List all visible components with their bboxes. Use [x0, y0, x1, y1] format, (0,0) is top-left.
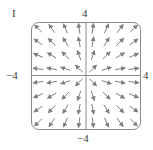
vector-arrow: [78, 51, 81, 60]
vector-arrow: [62, 92, 69, 99]
vector-arrow: [129, 94, 138, 98]
vector-arrow: [34, 106, 42, 112]
vector-arrow: [48, 39, 55, 46]
vector-arrow: [117, 118, 123, 126]
vector-arrow: [78, 104, 80, 114]
vector-arrow: [61, 81, 70, 84]
vector-arrow: [49, 25, 55, 33]
vector-arrow: [130, 25, 137, 32]
vector-arrow: [48, 105, 55, 112]
vector-arrow: [92, 37, 94, 47]
vector-arrow: [104, 38, 109, 47]
vector-arrow: [76, 79, 83, 86]
vector-arrow: [117, 39, 124, 46]
vector-arrow: [78, 91, 81, 100]
vector-arrow: [63, 38, 68, 47]
vector-arrow: [116, 93, 125, 98]
vector-arrow: [91, 91, 94, 100]
vector-arrow: [103, 92, 110, 99]
vector-arrow: [33, 81, 43, 82]
vector-arrow: [35, 119, 42, 126]
vector-arrow: [130, 106, 138, 112]
vector-arrow: [117, 105, 124, 112]
vector-field-plot: [0, 0, 153, 150]
vector-arrow: [64, 24, 68, 33]
vector-arrow: [102, 67, 111, 70]
vector-arrow: [103, 52, 110, 59]
vector-arrow: [104, 105, 109, 114]
vector-arrow: [102, 81, 111, 84]
vector-arrow: [130, 39, 138, 45]
vector-arrow: [92, 117, 93, 127]
vector-arrow: [89, 79, 96, 86]
vector-arrow: [63, 105, 68, 114]
vector-arrow: [48, 53, 57, 58]
vector-arrow: [104, 118, 108, 127]
vector-arrow: [34, 94, 43, 98]
vector-arrow: [129, 81, 139, 82]
vector-arrow: [129, 68, 139, 69]
vector-arrow: [47, 68, 57, 70]
vector-arrow: [130, 119, 137, 126]
vector-arrow: [48, 93, 57, 98]
vector-arrow: [117, 25, 123, 33]
vector-arrow: [115, 68, 125, 70]
vector-arrow: [49, 118, 55, 126]
vector-arrow: [76, 65, 83, 72]
vector-arrow: [47, 81, 57, 83]
vector-arrow: [34, 53, 43, 57]
vector-arrow: [116, 53, 125, 58]
vector-arrow: [34, 39, 42, 45]
vector-arrow: [91, 51, 94, 60]
vector-arrow: [61, 67, 70, 70]
vector-arrow: [64, 118, 68, 127]
vector-arrow: [78, 24, 79, 34]
vector-arrow: [115, 81, 125, 83]
vector-arrow: [92, 24, 93, 34]
vector-arrow: [35, 25, 42, 32]
vector-arrow: [78, 37, 80, 47]
vector-arrow: [62, 52, 69, 59]
vector-arrow: [92, 104, 94, 114]
vector-arrow: [78, 117, 79, 127]
vector-arrow: [33, 68, 43, 69]
vector-arrow: [129, 53, 138, 57]
vector-arrow: [89, 65, 96, 72]
vector-arrow: [104, 24, 108, 33]
